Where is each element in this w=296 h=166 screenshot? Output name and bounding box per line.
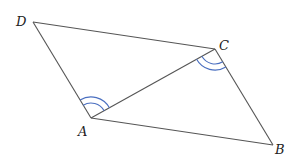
edge-CB — [215, 49, 273, 145]
edge-AD — [33, 22, 91, 118]
vertex-label-C: C — [219, 38, 229, 53]
parallelogram-diagram: A B C D — [0, 0, 296, 166]
vertex-label-A: A — [77, 124, 87, 139]
angle-mark-A — [80, 97, 109, 111]
angle-mark-C — [197, 56, 226, 70]
edge-DC — [33, 22, 215, 49]
vertex-label-B: B — [274, 142, 285, 157]
edge-BA — [91, 118, 273, 145]
vertex-label-D: D — [15, 14, 27, 29]
